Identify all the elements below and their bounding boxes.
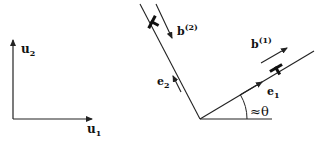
b2-label: b(2) — [177, 22, 198, 38]
u2-label: u2 — [21, 42, 35, 58]
b1-label: b(1) — [251, 35, 272, 51]
b1-burgers-vector-arrow — [261, 48, 287, 63]
e1-arrow — [240, 82, 262, 95]
e2-arrow — [173, 76, 181, 92]
reference-frame-u: u2 u1 — [13, 40, 101, 138]
b2-burgers-vector-arrow — [156, 4, 172, 38]
angle-label: ≈θ — [250, 104, 269, 119]
crystal-frame-e: ≈θ e1 e2 b(2) b(1) — [140, 4, 314, 119]
u1-label: u1 — [87, 122, 101, 138]
angle-arc — [241, 95, 248, 119]
e1-label: e1 — [267, 85, 280, 100]
dislocation-2-icon — [147, 15, 162, 32]
diagram-canvas: u2 u1 ≈θ e1 e2 b(2) b(1) — [0, 0, 328, 142]
e2-label: e2 — [157, 75, 170, 90]
